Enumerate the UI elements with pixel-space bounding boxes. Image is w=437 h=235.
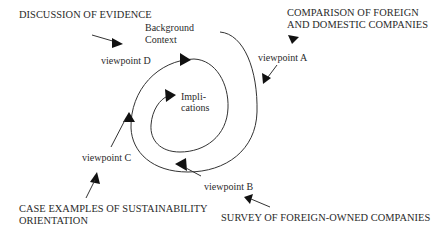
source-a-arrowhead: [288, 35, 299, 44]
spiral-diagram: Background Context Impli- cations DISCUS…: [0, 0, 437, 235]
source-b-arrow-line: [251, 199, 270, 207]
viewpoint-b-label: viewpoint B: [204, 181, 253, 192]
center-label-line2: cations: [181, 102, 209, 113]
source-case-line1: CASE EXAMPLES OF SUSTAINABILITY: [19, 203, 208, 214]
spiral-arrowhead-d: [180, 53, 191, 66]
viewpoint-c-label: viewpoint C: [82, 152, 131, 163]
source-d-arrowhead: [112, 38, 123, 48]
spiral-arrowhead-b: [175, 158, 187, 171]
source-case-line2: ORIENTATION: [19, 215, 88, 226]
start-label-line2: Context: [145, 34, 177, 45]
source-c-arrowhead: [90, 172, 100, 184]
viewpoint-d-label: viewpoint D: [101, 55, 151, 66]
start-label-line1: Background: [145, 22, 194, 33]
spiral-arrowhead-center: [165, 89, 176, 102]
source-comparison-line2: AND DOMESTIC COMPANIES: [287, 19, 428, 30]
source-discussion: DISCUSSION OF EVIDENCE: [19, 9, 152, 20]
viewpoint-a-label: viewpoint A: [258, 52, 308, 63]
source-comparison-line1: COMPARISON OF FOREIGN: [287, 7, 419, 18]
center-label-line1: Impli-: [181, 91, 206, 102]
source-survey: SURVEY OF FOREIGN-OWNED COMPANIES: [221, 212, 430, 223]
viewpoint-c-arrow-line: [111, 120, 125, 147]
source-c-arrow-line: [86, 180, 95, 198]
viewpoint-a-arrow-line: [268, 65, 277, 77]
